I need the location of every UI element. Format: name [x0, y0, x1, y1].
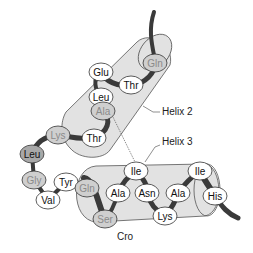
- residue-label: Ile: [131, 166, 142, 177]
- residue-lys2: Lys: [153, 207, 177, 225]
- helix-3-leader: [145, 145, 160, 162]
- residue-gln1: Gln: [143, 54, 167, 72]
- residue-label: Gln: [147, 58, 163, 69]
- residue-label: Glu: [93, 67, 109, 78]
- residue-tyr: Tyr: [54, 173, 78, 191]
- residue-label: His: [208, 191, 222, 202]
- residue-label: Ala: [96, 106, 111, 117]
- residue-label: Ala: [111, 188, 126, 199]
- residue-val: Val: [36, 191, 60, 209]
- residue-label: Lys: [50, 130, 65, 141]
- residue-label: Gln: [79, 183, 95, 194]
- residue-label: Asn: [138, 188, 155, 199]
- residue-ile2: Ile: [188, 162, 212, 180]
- residue-label: Leu: [93, 92, 110, 103]
- residue-label: Lys: [157, 211, 172, 222]
- residue-asn: Asn: [135, 184, 159, 202]
- residue-label: Thr: [124, 80, 140, 91]
- residue-ala3: Ala: [166, 184, 190, 202]
- residue-gly: Gly: [22, 171, 46, 189]
- cro-helix-turn-helix-diagram: Helix 2 Helix 3 Cro GlnGluThrLeuAlaLysTh…: [0, 0, 253, 253]
- residue-label: Leu: [24, 149, 41, 160]
- residue-label: Val: [41, 195, 55, 206]
- residue-thr2: Thr: [82, 129, 106, 147]
- residue-leu2: Leu: [20, 145, 44, 163]
- residue-ile1: Ile: [124, 162, 148, 180]
- residue-lys1: Lys: [46, 126, 70, 144]
- helix-2-leader: [143, 106, 160, 112]
- residue-gln2: Gln: [75, 179, 99, 197]
- residue-label: Ser: [97, 214, 113, 225]
- residue-ala2: Ala: [106, 184, 130, 202]
- diagram-title: Cro: [117, 231, 134, 242]
- residue-label: Gly: [27, 175, 42, 186]
- residue-thr1: Thr: [119, 76, 143, 94]
- residue-label: Ile: [195, 166, 206, 177]
- helix-3-label: Helix 3: [162, 136, 193, 147]
- helix-2-label: Helix 2: [162, 106, 193, 117]
- residue-label: Ala: [171, 188, 186, 199]
- residue-label: Thr: [87, 133, 103, 144]
- residue-ser: Ser: [93, 210, 117, 228]
- residue-his: His: [203, 187, 227, 205]
- residue-label: Tyr: [59, 177, 74, 188]
- residue-ala1: Ala: [91, 102, 115, 120]
- residue-glu: Glu: [89, 63, 113, 81]
